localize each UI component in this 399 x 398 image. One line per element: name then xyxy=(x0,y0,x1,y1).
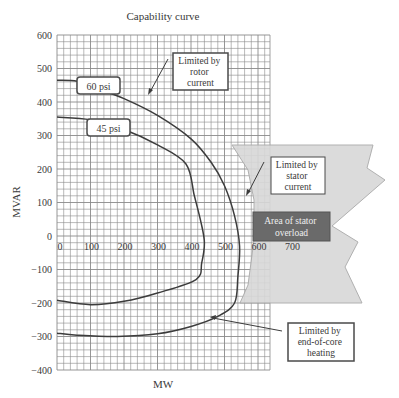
y-axis-label: MVAR xyxy=(10,186,22,218)
y-tick-label: 600 xyxy=(37,30,52,41)
svg-text:60 psi: 60 psi xyxy=(86,81,110,92)
x-tick-label: 500 xyxy=(218,241,233,252)
y-tick-label: 500 xyxy=(37,63,52,74)
y-tick-label: −200 xyxy=(31,298,52,309)
x-tick-label: 600 xyxy=(252,241,267,252)
svg-text:45 psi: 45 psi xyxy=(96,123,120,134)
y-axis-ticks: 6005004003002001000−100−200−300−400 xyxy=(31,30,52,376)
arrow-icon xyxy=(246,189,251,196)
y-tick-label: −300 xyxy=(31,331,52,342)
y-tick-label: 100 xyxy=(37,197,52,208)
annotation-end-of-core-heating: Limited by end-of-core heating xyxy=(210,315,354,361)
x-axis-label: MW xyxy=(153,378,174,390)
x-tick-label: 100 xyxy=(84,241,99,252)
y-tick-label: −100 xyxy=(31,264,52,275)
x-tick-label: 200 xyxy=(118,241,133,252)
label-60-psi: 60 psi xyxy=(77,77,120,94)
x-tick-label: 700 xyxy=(285,241,300,252)
y-tick-label: 400 xyxy=(37,97,52,108)
capability-chart: Capability curve 6005004003002001000−100… xyxy=(0,0,399,398)
y-tick-label: −400 xyxy=(31,365,52,376)
y-tick-label: 0 xyxy=(47,231,52,242)
y-tick-label: 200 xyxy=(37,164,52,175)
x-tick-label: 400 xyxy=(185,241,200,252)
x-tick-label: 0 xyxy=(58,241,63,252)
label-45-psi: 45 psi xyxy=(87,119,130,136)
annotation-stator-overload: Area of stator overload xyxy=(253,212,330,241)
x-tick-label: 300 xyxy=(151,241,166,252)
y-tick-label: 300 xyxy=(37,130,52,141)
chart-title: Capability curve xyxy=(126,10,199,22)
